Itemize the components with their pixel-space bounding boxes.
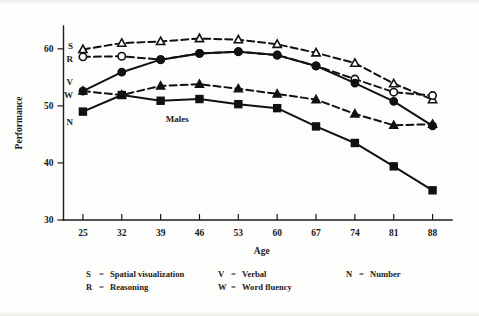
series-line-V [83,84,433,125]
data-point-marker [273,51,280,58]
legend-description: Spatial visualization [110,268,184,281]
data-point-marker [235,48,242,55]
legend-key: W [218,281,231,294]
x-axis-ticks [83,214,433,220]
males-annotation: Males [166,114,189,124]
legend-description: Word fluency [242,281,292,294]
data-point-marker [312,62,319,69]
data-point-marker [118,92,125,99]
data-point-marker [118,69,125,76]
series-lines-group [83,39,433,191]
series-tag-N: N [66,117,73,127]
data-point-marker [196,50,203,57]
legend-entry-N: N=Number [346,268,446,281]
figure-canvas: 30405060 25323946536067748188 Performanc… [0,0,479,316]
series-tag-R: R [66,54,73,64]
data-point-marker [118,39,126,46]
series-line-R [83,52,433,96]
series-markers-W [79,48,436,130]
data-point-marker [274,105,281,112]
legend-row: R=ReasoningW=Word fluency [86,281,466,294]
x-axis-title: Age [254,246,270,256]
y-axis-tick-labels: 30405060 [44,44,54,225]
data-point-marker [234,35,242,42]
data-point-marker [429,122,436,129]
y-tick-label: 30 [44,215,54,225]
x-tick-label: 25 [78,228,88,238]
series-markers-V [79,80,437,128]
x-tick-label: 88 [428,228,438,238]
data-point-marker [390,98,397,105]
data-point-marker [312,49,320,56]
chart-legend: S=Spatial visualizationV=VerbalN=Number … [86,268,466,294]
data-point-marker [157,97,164,104]
legend-entry-R: R=Reasoning [86,281,218,294]
legend-equals-sign: = [99,281,110,294]
data-point-marker [196,96,203,103]
x-tick-label: 32 [117,228,127,238]
data-point-marker [390,88,397,95]
y-axis-ticks [58,49,64,220]
legend-description: Verbal [242,268,267,281]
x-tick-label: 60 [272,228,282,238]
legend-equals-sign: = [231,281,242,294]
x-tick-label: 39 [156,228,166,238]
legend-key: N [346,268,359,281]
x-tick-label: 67 [311,228,321,238]
data-point-marker [390,163,397,170]
y-tick-label: 40 [44,158,54,168]
series-tag-V: V [66,77,73,87]
x-tick-label: 46 [195,228,205,238]
data-point-marker [235,101,242,108]
data-point-marker [351,79,358,86]
legend-key: S [86,268,99,281]
legend-entry-W: W=Word fluency [218,281,346,294]
data-point-marker [79,53,86,60]
y-axis-title: Performance [14,97,24,150]
series-line-N [83,95,433,190]
data-point-marker [351,59,359,66]
data-point-marker [313,123,320,130]
data-point-marker [79,108,86,115]
x-axis-tick-labels: 25323946536067748188 [78,228,437,238]
legend-key: R [86,281,99,294]
series-tag-S: S [68,41,73,51]
legend-equals-sign: = [231,268,242,281]
x-tick-label: 74 [350,228,360,238]
data-point-marker [390,79,398,86]
data-point-marker [429,92,436,99]
series-tag-W: W [64,90,73,100]
legend-description: Number [370,268,401,281]
data-point-marker [429,187,436,194]
x-tick-label: 53 [234,228,244,238]
legend-equals-sign: = [359,268,370,281]
legend-entry-V: V=Verbal [218,268,346,281]
data-point-marker [157,56,164,63]
y-tick-label: 50 [44,101,54,111]
data-point-marker [118,53,125,60]
legend-description: Reasoning [110,281,148,294]
legend-equals-sign: = [99,268,110,281]
series-tag-labels: SRVWN [64,41,74,127]
y-tick-label: 60 [44,44,54,54]
data-point-marker [195,34,203,41]
x-tick-label: 81 [389,228,399,238]
data-point-marker [351,110,359,117]
legend-entry-S: S=Spatial visualization [86,268,218,281]
series-line-W [83,52,433,126]
legend-row: S=Spatial visualizationV=VerbalN=Number [86,268,466,281]
data-point-marker [79,87,86,94]
legend-key: V [218,268,231,281]
data-point-marker [157,37,165,44]
data-point-marker [79,45,87,52]
data-point-marker [273,40,281,47]
data-point-marker [351,139,358,146]
